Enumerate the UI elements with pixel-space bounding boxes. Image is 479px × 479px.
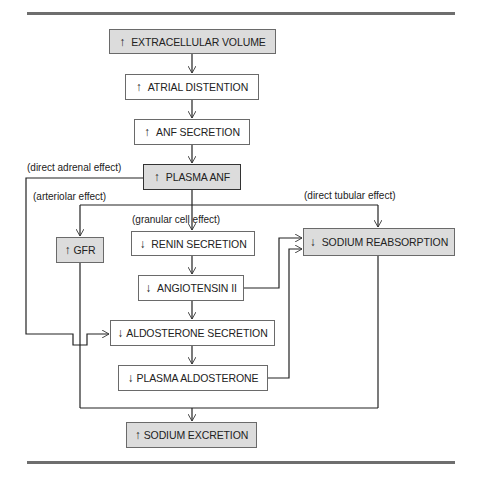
- up-arrow-icon: ↑: [136, 81, 142, 93]
- bottom-rule: [27, 461, 455, 464]
- node-sodium-excretion: ↑ SODIUM EXCRETION: [126, 422, 257, 448]
- node-label: RENIN SECRETION: [151, 238, 246, 250]
- node-label: ATRIAL DISTENTION: [148, 81, 248, 93]
- node-plasma-aldosterone: ↓ PLASMA ALDOSTERONE: [118, 365, 268, 391]
- down-arrow-icon: ↓: [145, 282, 151, 294]
- node-renin-secretion: ↓ RENIN SECRETION: [131, 231, 255, 256]
- granular-cell-effect-label: (granular cell effect): [132, 214, 220, 225]
- direct-adrenal-effect-label: (direct adrenal effect): [27, 162, 121, 173]
- node-label: EXTRACELLULAR VOLUME: [131, 36, 266, 48]
- node-label: PLASMA ALDOSTERONE: [136, 372, 258, 384]
- node-extracellular-volume: ↑ EXTRACELLULAR VOLUME: [109, 29, 276, 54]
- node-label: GFR: [74, 244, 96, 256]
- node-label: ALDOSTERONE SECRETION: [126, 327, 267, 339]
- node-atrial-distention: ↑ ATRIAL DISTENTION: [125, 74, 259, 100]
- down-arrow-icon: ↓: [139, 238, 145, 250]
- direct-tubular-effect-label: (direct tubular effect): [304, 190, 396, 201]
- node-sodium-reabsorption: ↓ SODIUM REABSORPTION: [303, 228, 455, 256]
- node-angiotensin-ii: ↓ ANGIOTENSIN II: [138, 275, 244, 301]
- down-arrow-icon: ↓: [310, 236, 316, 248]
- node-label: ANF SECRETION: [156, 126, 240, 138]
- up-arrow-icon: ↑: [154, 171, 160, 183]
- node-aldosterone-secretion: ↓ ALDOSTERONE SECRETION: [110, 320, 275, 346]
- up-arrow-icon: ↑: [65, 244, 71, 256]
- node-label: SODIUM REABSORPTION: [322, 236, 448, 248]
- up-arrow-icon: ↑: [119, 36, 125, 48]
- node-label: SODIUM EXCRETION: [144, 429, 249, 441]
- up-arrow-icon: ↑: [144, 126, 150, 138]
- node-anf-secretion: ↑ ANF SECRETION: [134, 119, 250, 145]
- node-gfr: ↑ GFR: [56, 237, 104, 263]
- down-arrow-icon: ↓: [128, 372, 134, 384]
- down-arrow-icon: ↓: [117, 327, 123, 339]
- node-plasma-anf: ↑ PLASMA ANF: [143, 164, 241, 190]
- node-label: ANGIOTENSIN II: [157, 282, 237, 294]
- arteriolar-effect-label: (arteriolar effect): [33, 191, 106, 202]
- up-arrow-icon: ↑: [135, 429, 141, 441]
- node-label: PLASMA ANF: [166, 171, 230, 183]
